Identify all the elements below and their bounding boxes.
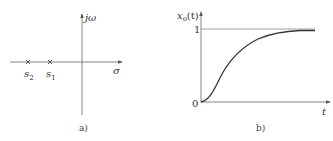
figure: s2 s1 jω σ a) xo(t) 1 0 t b) [0, 0, 333, 141]
response-curve [201, 31, 315, 103]
step-response-plot: xo(t) 1 0 t b) [177, 10, 330, 133]
pole-s1-label: s1 [46, 68, 56, 82]
pole-s2-label: s2 [24, 68, 34, 82]
real-axis-label: σ [113, 65, 121, 76]
response-axis-label: xo(t) [177, 10, 199, 23]
imaginary-axis-label: jω [83, 12, 96, 23]
caption-a: a) [79, 123, 88, 133]
caption-b: b) [256, 123, 265, 133]
origin-label: 0 [192, 98, 198, 109]
time-axis-label: t [322, 106, 327, 117]
pole-zero-plot: s2 s1 jω σ a) [10, 12, 122, 133]
level-one-label: 1 [194, 24, 200, 35]
